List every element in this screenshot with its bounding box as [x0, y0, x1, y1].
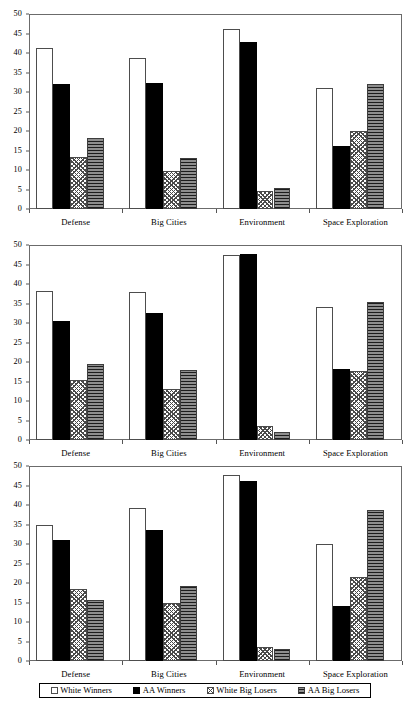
bars-layer: [29, 466, 402, 661]
y-tick-label: 25: [14, 108, 22, 116]
legend-item-aa_winners: AA Winners: [133, 686, 185, 695]
x-tick-label: Big Cities: [151, 217, 187, 227]
x-tick-label: Environment: [239, 217, 285, 227]
legend-swatch-white_big_losers: [207, 687, 214, 694]
y-axis-3: 05101520253035404550: [0, 466, 26, 661]
plot-area-2: 05101520253035404550: [0, 245, 409, 440]
y-tick-label: 20: [14, 358, 22, 366]
plot-area-1: 05101520253035404550: [0, 14, 409, 209]
y-tick-label: 35: [14, 69, 22, 77]
bar-white-winners: [129, 292, 146, 440]
bar-aa-big-losers: [274, 649, 291, 661]
bar-aa-big-losers: [274, 188, 291, 209]
y-tick-label: 20: [14, 579, 22, 587]
x-tick-label: Environment: [239, 448, 285, 458]
bar-aa-winners: [333, 369, 350, 440]
y-axis-2: 05101520253035404550: [0, 245, 26, 440]
legend-item-aa_big_losers: AA Big Losers: [298, 686, 359, 695]
bar-aa-winners: [240, 481, 257, 661]
bar-white-big-losers: [350, 371, 367, 440]
bar-white-winners: [36, 48, 53, 209]
x-tick-mark: [122, 209, 123, 213]
x-tick-mark: [309, 209, 310, 213]
bar-white-big-losers: [257, 647, 274, 661]
bar-aa-big-losers: [180, 586, 197, 661]
y-axis-1: 05101520253035404550: [0, 14, 26, 209]
y-tick-label: 45: [14, 261, 22, 269]
x-tick-mark: [402, 209, 403, 213]
y-tick-label: 45: [14, 482, 22, 490]
y-tick-label: 40: [14, 49, 22, 57]
bar-aa-big-losers: [274, 432, 291, 440]
y-tick-label: 40: [14, 501, 22, 509]
bar-white-big-losers: [257, 426, 274, 440]
y-tick-label: 30: [14, 540, 22, 548]
bar-white-big-losers: [350, 577, 367, 661]
bar-white-winners: [36, 291, 53, 440]
bar-aa-big-losers: [367, 84, 384, 209]
y-tick-label: 5: [18, 638, 22, 646]
y-tick-label: 30: [14, 319, 22, 327]
bar-group: [216, 466, 309, 661]
legend-item-white_big_losers: White Big Losers: [207, 686, 277, 695]
x-tick-mark: [122, 440, 123, 444]
y-tick-label: 20: [14, 127, 22, 135]
x-axis-1: [29, 209, 402, 213]
legend-swatch-aa_winners: [133, 687, 140, 694]
y-tick-label: 15: [14, 378, 22, 386]
bar-white-winners: [36, 525, 53, 662]
bar-white-winners: [223, 29, 240, 209]
x-tick-label: Defense: [61, 217, 90, 227]
y-tick-label: 0: [18, 436, 22, 444]
bar-white-winners: [316, 88, 333, 209]
bar-white-winners: [316, 307, 333, 440]
bar-white-big-losers: [257, 191, 274, 209]
y-tick-label: 10: [14, 618, 22, 626]
bar-aa-winners: [240, 42, 257, 209]
x-tick-mark: [216, 209, 217, 213]
y-tick-label: 0: [18, 205, 22, 213]
y-tick-label: 0: [18, 657, 22, 665]
bar-white-winners: [223, 475, 240, 661]
legend-label: White Winners: [60, 686, 112, 695]
x-tick-label: Space Exploration: [323, 448, 388, 458]
x-tick-mark: [402, 661, 403, 665]
x-tick-mark: [309, 440, 310, 444]
bar-white-winners: [223, 255, 240, 440]
y-tick-label: 10: [14, 397, 22, 405]
bar-white-winners: [316, 544, 333, 661]
bar-chart-panel-3: 05101520253035404550DefenseBig CitiesEnv…: [0, 466, 409, 687]
bar-group: [309, 466, 402, 661]
bar-aa-big-losers: [87, 138, 104, 209]
legend-item-white_winners: White Winners: [51, 686, 112, 695]
x-tick-label: Big Cities: [151, 448, 187, 458]
bars-layer: [29, 14, 402, 209]
bar-group: [29, 14, 122, 209]
bar-aa-winners: [53, 321, 70, 440]
bar-white-big-losers: [163, 389, 180, 440]
y-tick-label: 5: [18, 186, 22, 194]
bar-aa-winners: [53, 84, 70, 209]
y-tick-label: 15: [14, 599, 22, 607]
bar-aa-big-losers: [180, 370, 197, 440]
bar-aa-winners: [146, 83, 163, 209]
x-tick-mark: [216, 661, 217, 665]
bar-white-big-losers: [350, 131, 367, 209]
bar-group: [122, 14, 215, 209]
x-tick-label: Big Cities: [151, 669, 187, 679]
bar-group: [29, 466, 122, 661]
bar-group: [309, 245, 402, 440]
x-tick-label: Space Exploration: [323, 669, 388, 679]
bar-aa-winners: [333, 606, 350, 661]
bar-group: [122, 466, 215, 661]
y-tick-label: 5: [18, 417, 22, 425]
bar-chart-panel-2: 05101520253035404550DefenseBig CitiesEnv…: [0, 245, 409, 466]
y-tick-label: 50: [14, 10, 22, 18]
bar-aa-winners: [146, 530, 163, 661]
x-tick-mark: [29, 209, 30, 213]
bar-white-big-losers: [163, 171, 180, 209]
chart-legend: White WinnersAA WinnersWhite Big LosersA…: [39, 683, 371, 698]
bar-aa-big-losers: [367, 302, 384, 440]
bar-aa-winners: [240, 254, 257, 440]
bar-aa-winners: [53, 540, 70, 661]
